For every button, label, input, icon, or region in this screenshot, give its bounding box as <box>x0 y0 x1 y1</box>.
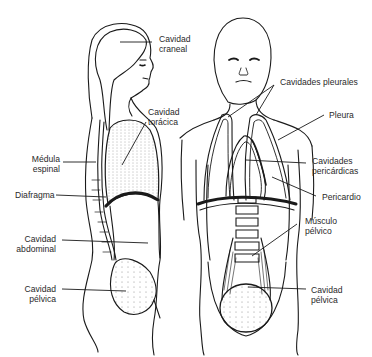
leader-pericardicas <box>246 160 306 163</box>
label-cavidad-toracica: Cavidad torácica <box>148 107 180 127</box>
label-cavidad-craneal: Cavidad craneal <box>159 34 191 54</box>
leader-pleura <box>278 115 324 140</box>
label-cavidad-pelvica-right: Cavidad pélvica <box>311 285 343 305</box>
leader-pericardio <box>272 177 316 196</box>
label-diafragma: Diafragma <box>15 190 55 200</box>
leader-musculo <box>252 224 297 256</box>
label-pericardio: Pericardio <box>322 192 361 202</box>
label-pleura: Pleura <box>329 110 354 120</box>
leader-abdominal <box>62 240 148 243</box>
label-musculo-pelvico: Músculo pélvico <box>305 216 337 236</box>
label-medula-espinal: Médula espinal <box>24 154 60 174</box>
label-cavidad-pelvica-left: Cavidad pélvica <box>14 284 56 304</box>
label-cavidades-pericardicas: Cavidades pericárdicas <box>312 156 358 176</box>
label-cavidad-abdominal: Cavidad abdominal <box>14 234 56 254</box>
side-view-figure <box>83 24 162 355</box>
label-cavidades-pleurales: Cavidades pleurales <box>280 77 358 87</box>
leader-pleurales <box>228 85 274 117</box>
